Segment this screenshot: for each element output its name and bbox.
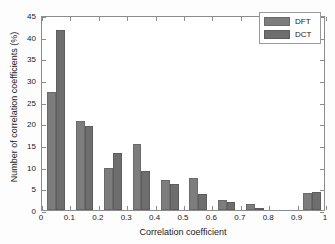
x-tick-mark	[42, 206, 43, 210]
y-tick-mark-right	[320, 82, 324, 83]
plot-area	[41, 16, 325, 211]
x-tick-mark	[326, 206, 327, 210]
y-tick-label-20: 20	[27, 120, 36, 129]
bar-dft-0.6-0.7	[218, 200, 227, 210]
legend-item-dft: DFT	[264, 16, 316, 27]
x-tick-mark	[269, 206, 270, 210]
y-tick-mark	[42, 147, 46, 148]
y-tick-label-45: 45	[27, 12, 36, 21]
x-tick-mark-top	[99, 17, 100, 21]
x-tick-mark	[99, 206, 100, 210]
x-tick-label-0.5: 0.5	[177, 213, 188, 222]
x-tick-mark-top	[156, 17, 157, 21]
y-tick-label-5: 5	[32, 185, 36, 194]
legend-label-dft: DFT	[295, 17, 311, 26]
y-tick-label-30: 30	[27, 77, 36, 86]
x-axis-tick-labels: 00.10.20.30.40.50.60.70.80.91	[41, 213, 325, 227]
x-tick-mark-top	[212, 17, 213, 21]
y-axis-tick-labels: 051015202530354045	[0, 16, 38, 211]
legend-swatch-dct-icon	[264, 30, 290, 39]
bar-dft-0.3-0.4	[133, 144, 142, 210]
y-tick-mark-right	[320, 169, 324, 170]
y-tick-mark-right	[320, 147, 324, 148]
chart-legend: DFT DCT	[259, 12, 321, 44]
x-tick-label-0.1: 0.1	[64, 213, 75, 222]
y-tick-mark	[42, 39, 46, 40]
bar-dct-0.2-0.3	[113, 153, 122, 210]
x-tick-label-0.4: 0.4	[149, 213, 160, 222]
x-tick-label-0.8: 0.8	[263, 213, 274, 222]
bar-dct-0.7-0.8	[255, 208, 264, 210]
x-tick-label-0.2: 0.2	[92, 213, 103, 222]
x-tick-mark	[241, 206, 242, 210]
x-axis-title: Correlation coefficient	[41, 227, 325, 237]
bar-dct-0.4-0.5	[170, 184, 179, 210]
y-tick-label-40: 40	[27, 33, 36, 42]
x-tick-mark-top	[241, 17, 242, 21]
bar-dft-0.1-0.2	[76, 121, 85, 210]
y-tick-label-15: 15	[27, 142, 36, 151]
x-tick-mark	[70, 206, 71, 210]
y-axis-title: Number of correlation coefficients (%)	[9, 17, 19, 197]
y-tick-label-25: 25	[27, 98, 36, 107]
x-tick-label-0.3: 0.3	[121, 213, 132, 222]
x-tick-mark-top	[326, 17, 327, 21]
y-tick-mark-right	[320, 125, 324, 126]
x-tick-mark	[184, 206, 185, 210]
x-tick-label-0.9: 0.9	[291, 213, 302, 222]
y-tick-mark	[42, 169, 46, 170]
bar-dft-0-0.1	[47, 92, 56, 210]
y-tick-mark-right	[320, 190, 324, 191]
bar-dct-0-0.1	[56, 30, 65, 210]
y-tick-label-10: 10	[27, 163, 36, 172]
bars-layer	[42, 17, 324, 210]
x-tick-label-1: 1	[323, 213, 327, 222]
x-tick-mark-top	[184, 17, 185, 21]
y-tick-mark	[42, 125, 46, 126]
x-tick-mark	[156, 206, 157, 210]
legend-item-dct: DCT	[264, 29, 316, 40]
bar-dft-0.7-0.8	[246, 204, 255, 210]
bar-dft-0.5-0.6	[189, 178, 198, 211]
x-tick-mark	[212, 206, 213, 210]
bar-dct-0.5-0.6	[198, 194, 207, 210]
y-tick-label-0: 0	[32, 207, 36, 216]
x-tick-label-0.7: 0.7	[234, 213, 245, 222]
x-tick-label-0: 0	[39, 213, 43, 222]
y-tick-mark	[42, 190, 46, 191]
figure-canvas: 051015202530354045 00.10.20.30.40.50.60.…	[0, 0, 335, 244]
bar-dct-0.1-0.2	[85, 126, 94, 210]
y-tick-mark	[42, 60, 46, 61]
y-tick-mark-right	[320, 60, 324, 61]
x-tick-mark	[127, 206, 128, 210]
bar-dct-0.9-1	[312, 192, 321, 210]
bar-dft-0.4-0.5	[161, 180, 170, 210]
legend-swatch-dft-icon	[264, 17, 290, 26]
x-tick-mark-top	[42, 17, 43, 21]
bar-dft-0.2-0.3	[104, 168, 113, 210]
bar-dct-0.6-0.7	[227, 202, 236, 210]
y-tick-mark	[42, 82, 46, 83]
x-tick-mark-top	[70, 17, 71, 21]
y-tick-label-35: 35	[27, 55, 36, 64]
bar-dft-0.9-1	[303, 193, 312, 210]
y-tick-mark	[42, 104, 46, 105]
y-tick-mark-right	[320, 104, 324, 105]
legend-label-dct: DCT	[295, 30, 311, 39]
x-tick-label-0.6: 0.6	[206, 213, 217, 222]
x-tick-mark	[298, 206, 299, 210]
bar-dct-0.3-0.4	[141, 171, 150, 210]
x-tick-mark-top	[127, 17, 128, 21]
